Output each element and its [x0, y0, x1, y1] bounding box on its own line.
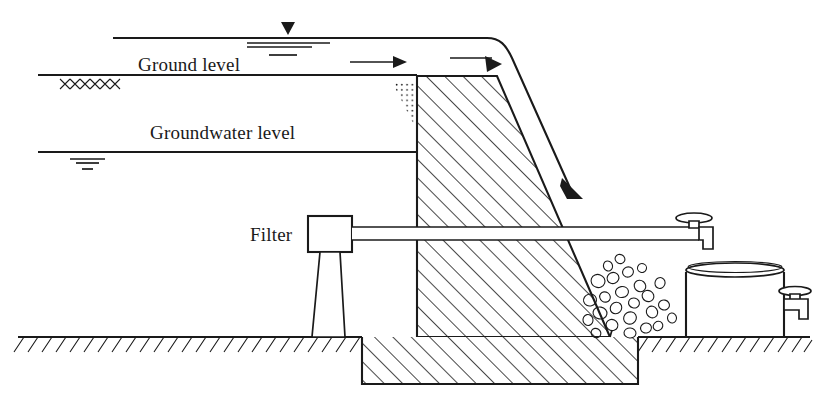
- flow-direction-arrow-right: [450, 56, 502, 72]
- overflow-spill-arrow: [560, 178, 583, 199]
- flow-direction-arrow-left: [350, 56, 407, 68]
- storage-tank: [686, 262, 784, 338]
- outlet-pipe: [352, 227, 699, 240]
- diagram-canvas: Ground level Groundwater level Filter: [0, 0, 828, 403]
- ground-level-label: Ground level: [138, 54, 240, 75]
- sand-dam-cross-section: Ground level Groundwater level Filter: [0, 0, 828, 403]
- groundwater-level-label: Groundwater level: [150, 122, 295, 143]
- filter-unit-box: [308, 216, 352, 252]
- filter-pedestal-stand: [312, 252, 345, 337]
- groundwater-level-symbol: [70, 159, 105, 169]
- dam-trapezoid-body: [410, 70, 625, 345]
- dam-foundation-block: [358, 333, 644, 389]
- filter-label: Filter: [250, 224, 293, 245]
- xxxx-soil-marker: [60, 79, 120, 89]
